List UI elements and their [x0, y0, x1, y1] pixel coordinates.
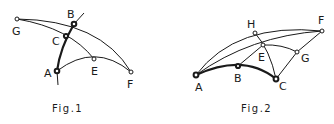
point-B — [72, 22, 77, 27]
point-F — [129, 70, 133, 74]
diagram-canvas: G B C A E F Fig.1 A B C E H — [0, 0, 334, 124]
point-A — [55, 69, 60, 74]
point-B — [236, 64, 240, 68]
figure-2: A B C E H F G Fig.2 — [194, 14, 325, 114]
label-B: B — [234, 72, 242, 85]
point-F — [320, 29, 324, 33]
label-E: E — [258, 51, 265, 64]
label-F: F — [318, 14, 324, 27]
label-C: C — [279, 80, 287, 93]
point-C — [64, 34, 68, 38]
point-A — [194, 73, 199, 78]
point-H — [253, 31, 257, 35]
caption-fig-2: Fig.2 — [241, 103, 272, 114]
point-E — [261, 43, 265, 47]
arc-E-G — [263, 45, 297, 52]
label-G: G — [301, 52, 310, 65]
label-B: B — [67, 8, 75, 21]
point-E — [92, 57, 96, 61]
label-E: E — [91, 65, 98, 78]
label-C: C — [52, 35, 60, 48]
caption-fig-1: Fig.1 — [52, 103, 83, 114]
label-F: F — [127, 78, 133, 91]
point-C — [274, 77, 279, 82]
label-A: A — [44, 67, 52, 80]
point-G — [15, 17, 19, 21]
label-G: G — [12, 25, 21, 38]
label-H: H — [247, 18, 255, 31]
figure-1: G B C A E F Fig.1 — [12, 8, 133, 114]
label-A: A — [195, 81, 203, 94]
point-G — [295, 50, 299, 54]
line-C-F — [276, 31, 322, 79]
